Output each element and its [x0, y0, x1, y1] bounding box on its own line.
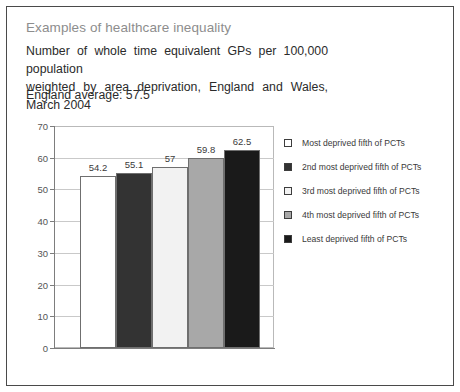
y-axis-tick-label: 40: [22, 216, 48, 227]
bar: [80, 176, 116, 348]
chart-legend: Most deprived fifth of PCTs2nd most depr…: [284, 134, 442, 254]
chart-subtitle-line1: Number of whole time equivalent GPs per …: [26, 44, 328, 76]
y-axis-tick-label: 60: [22, 152, 48, 163]
y-axis-tick-label: 0: [22, 343, 48, 354]
legend-item[interactable]: Most deprived fifth of PCTs: [284, 134, 442, 152]
legend-swatch-icon: [284, 235, 292, 243]
chart-subtitle: Number of whole time equivalent GPs per …: [26, 42, 328, 114]
legend-swatch-icon: [284, 163, 292, 171]
legend-item[interactable]: 3rd most deprived fifth of PCTs: [284, 182, 442, 200]
page-heading: Examples of healthcare inequality: [26, 20, 426, 35]
legend-item[interactable]: 2nd most deprived fifth of PCTs: [284, 158, 442, 176]
y-axis-tick-label: 30: [22, 247, 48, 258]
bar: [188, 158, 224, 348]
england-average-text: England average: 57.5: [26, 88, 150, 102]
bar-value-label: 54.2: [89, 162, 108, 173]
bar-value-label: 57: [165, 153, 176, 164]
bar: [116, 173, 152, 348]
bar-value-label: 59.8: [197, 144, 216, 155]
legend-item-label: Least deprived fifth of PCTs: [302, 234, 407, 244]
legend-item[interactable]: Least deprived fifth of PCTs: [284, 230, 442, 248]
legend-item-label: 4th most deprived fifth of PCTs: [302, 210, 419, 220]
page-root: Examples of healthcare inequality Number…: [0, 0, 460, 392]
legend-swatch-icon: [284, 211, 292, 219]
legend-item-label: Most deprived fifth of PCTs: [302, 138, 405, 148]
legend-item[interactable]: 4th most deprived fifth of PCTs: [284, 206, 442, 224]
y-axis-tick-label: 20: [22, 279, 48, 290]
legend-swatch-icon: [284, 139, 292, 147]
bar-value-label: 62.5: [233, 136, 252, 147]
bar: [152, 167, 188, 348]
y-axis-tick-label: 50: [22, 184, 48, 195]
y-axis-tick-label: 10: [22, 311, 48, 322]
bar: [224, 150, 260, 348]
bar-value-label: 55.1: [125, 159, 144, 170]
x-axis-line: [54, 348, 275, 349]
y-axis-tick-label: 70: [22, 121, 48, 132]
bar-chart: 010203040506070 54.255.15759.862.5 Most …: [22, 126, 442, 358]
legend-swatch-icon: [284, 187, 292, 195]
legend-item-label: 3rd most deprived fifth of PCTs: [302, 186, 420, 196]
legend-item-label: 2nd most deprived fifth of PCTs: [302, 162, 421, 172]
